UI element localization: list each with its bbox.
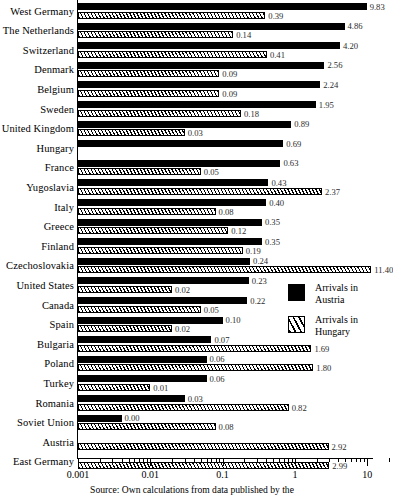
bar-value-label: 1.95 bbox=[319, 101, 334, 110]
bar-value-label: 4.20 bbox=[343, 42, 358, 51]
bar-row: Sweden1.950.18 bbox=[0, 100, 384, 120]
category-label: Sweden bbox=[0, 100, 74, 120]
axis-tick-minor bbox=[122, 458, 123, 462]
axis-tick-minor bbox=[207, 458, 208, 462]
bar-hungary bbox=[78, 208, 216, 215]
axis-tick-minor bbox=[329, 458, 330, 462]
bar-austria bbox=[78, 258, 250, 265]
bar-value-label: 0.82 bbox=[292, 404, 307, 413]
bar-hungary bbox=[78, 266, 371, 273]
bar-value-label: 2.56 bbox=[327, 61, 342, 70]
row-bars: 4.860.14 bbox=[78, 21, 384, 41]
bar-hungary bbox=[78, 31, 233, 38]
axis-tick-minor bbox=[351, 458, 352, 462]
bar-austria bbox=[78, 336, 211, 343]
category-label: East Germany bbox=[0, 452, 74, 472]
bar-value-label: 0.06 bbox=[210, 375, 225, 384]
bar-austria bbox=[78, 219, 262, 226]
bar-austria bbox=[78, 3, 367, 10]
row-bars: 0.400.08 bbox=[78, 198, 384, 218]
axis-tick-minor bbox=[345, 458, 346, 462]
row-bars: 0.350.19 bbox=[78, 237, 384, 257]
axis-tick-minor bbox=[147, 458, 148, 462]
axis-tick-minor bbox=[100, 458, 101, 462]
axis-tick-minor bbox=[317, 458, 318, 462]
category-label: Finland bbox=[0, 237, 74, 257]
axis-tick-label: 0.01 bbox=[142, 469, 160, 480]
bar-value-label: 0.35 bbox=[265, 238, 280, 247]
category-label: Denmark bbox=[0, 60, 74, 80]
bar-value-label: 0.12 bbox=[231, 227, 246, 236]
bar-row: East Germany2.99 bbox=[0, 452, 384, 472]
category-label: Bulgaria bbox=[0, 335, 74, 355]
bar-hungary bbox=[78, 286, 172, 293]
bar-value-label: 0.89 bbox=[294, 120, 309, 129]
bar-austria bbox=[78, 199, 266, 206]
category-label: West Germany bbox=[0, 2, 74, 22]
bar-row: The Netherlands4.860.14 bbox=[0, 21, 384, 41]
axis-tick-major bbox=[223, 458, 224, 466]
category-label: United Kingdom bbox=[0, 119, 74, 139]
bar-austria bbox=[78, 395, 185, 402]
bar-hungary bbox=[78, 168, 201, 175]
bar-austria bbox=[78, 101, 316, 108]
bar-value-label: 0.69 bbox=[286, 140, 301, 149]
axis-tick-label: 10 bbox=[362, 469, 372, 480]
bar-row: United Kingdom0.890.03 bbox=[0, 119, 384, 139]
legend-item-hungary: Arrivals in Hungary bbox=[288, 315, 384, 347]
axis-tick-minor bbox=[134, 458, 135, 462]
axis-tick-minor bbox=[194, 458, 195, 462]
row-bars: 0.061.80 bbox=[78, 354, 384, 374]
bar-value-label: 2.92 bbox=[332, 443, 347, 452]
bar-row: Hungary0.69 bbox=[0, 139, 384, 159]
bar-value-label: 0.41 bbox=[270, 51, 285, 60]
category-label: The Netherlands bbox=[0, 21, 74, 41]
axis-tick-minor bbox=[288, 458, 289, 462]
legend-item-label: Arrivals in Austria bbox=[315, 282, 358, 305]
bar-hungary bbox=[78, 345, 311, 352]
bar-hungary bbox=[78, 306, 201, 313]
bar-value-label: 0.09 bbox=[222, 90, 237, 99]
bar-value-label: 0.00 bbox=[125, 414, 140, 423]
bar-value-label: 0.07 bbox=[214, 336, 229, 345]
axis-tick-minor bbox=[360, 458, 361, 462]
axis-tick-minor bbox=[129, 458, 130, 462]
bar-value-label: 0.03 bbox=[188, 395, 203, 404]
category-label: Soviet Union bbox=[0, 413, 74, 433]
bar-value-label: 2.37 bbox=[325, 188, 340, 197]
axis-tick-minor bbox=[211, 458, 212, 462]
bar-austria bbox=[78, 62, 324, 69]
category-label: Hungary bbox=[0, 139, 74, 159]
axis-tick-major bbox=[150, 458, 151, 466]
axis-tick-minor bbox=[389, 458, 390, 462]
bar-value-label: 0.43 bbox=[271, 179, 286, 188]
category-label: Turkey bbox=[0, 374, 74, 394]
row-bars: 0.890.03 bbox=[78, 119, 384, 139]
row-bars: 0.2411.40 bbox=[78, 256, 384, 276]
row-bars: 0.69 bbox=[78, 139, 384, 159]
bar-value-label: 0.23 bbox=[252, 277, 267, 286]
bar-hungary bbox=[78, 443, 329, 450]
bar-hungary bbox=[78, 247, 243, 254]
axis-tick-minor bbox=[201, 458, 202, 462]
bar-austria bbox=[78, 415, 122, 422]
axis-tick-minor bbox=[284, 458, 285, 462]
bar-row: Denmark2.560.09 bbox=[0, 60, 384, 80]
axis-tick-label: 0.1 bbox=[216, 469, 229, 480]
bar-value-label: 0.06 bbox=[210, 355, 225, 364]
bar-value-label: 0.35 bbox=[265, 218, 280, 227]
row-bars: 0.060.01 bbox=[78, 374, 384, 394]
bar-hungary bbox=[78, 364, 313, 371]
bar-value-label: 0.01 bbox=[153, 384, 168, 393]
bar-row: Yugoslavia0.432.37 bbox=[0, 178, 384, 198]
bar-value-label: 4.86 bbox=[348, 22, 363, 31]
axis-tick-major bbox=[367, 458, 368, 466]
bar-value-label: 0.05 bbox=[204, 168, 219, 177]
axis-tick-major bbox=[78, 458, 79, 466]
bar-austria bbox=[78, 317, 223, 324]
bar-value-label: 11.40 bbox=[374, 266, 393, 275]
category-label: Poland bbox=[0, 354, 74, 374]
bar-value-label: 0.39 bbox=[268, 12, 283, 21]
bar-austria bbox=[78, 179, 268, 186]
